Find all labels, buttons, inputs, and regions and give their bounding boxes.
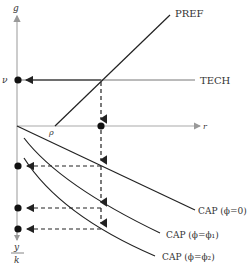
pref-line bbox=[55, 15, 170, 126]
cap-phi2-label: CAP (ϕ=ϕ₂) bbox=[162, 252, 215, 262]
r-axis-label: r bbox=[203, 122, 208, 131]
cap-phi0-label: CAP (ϕ=0) bbox=[198, 206, 247, 216]
rho-label: ρ bbox=[48, 128, 54, 137]
nu-label: ν bbox=[2, 75, 8, 85]
r-star-dot bbox=[97, 122, 104, 129]
g-axis-label: g bbox=[13, 3, 19, 13]
growth-capital-diagram: g y k r ρ TECH ν PREF CAP (ϕ=0) CAP (ϕ=ϕ… bbox=[0, 0, 247, 271]
tech-label: TECH bbox=[200, 75, 231, 86]
cap-phi1-curve bbox=[24, 138, 160, 233]
cap-phi1-label: CAP (ϕ=ϕ₁) bbox=[166, 230, 219, 240]
cap-phi0-line bbox=[17, 126, 195, 210]
g-dot-phi1 bbox=[14, 204, 21, 211]
g-dot-phi0 bbox=[14, 162, 21, 169]
nu-dot bbox=[14, 76, 21, 83]
pref-label: PREF bbox=[175, 8, 204, 19]
cap-phi2-curve bbox=[24, 158, 155, 256]
yk-label-denominator: k bbox=[14, 255, 19, 265]
yk-label-numerator: y bbox=[13, 242, 20, 252]
g-dot-phi2 bbox=[14, 225, 21, 232]
